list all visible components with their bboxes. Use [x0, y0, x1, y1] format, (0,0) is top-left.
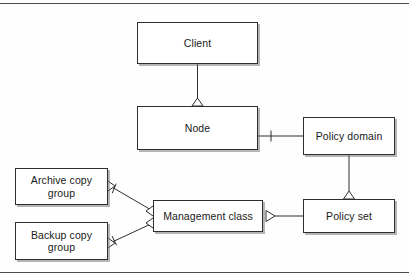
class-box-client-label: Client [184, 37, 211, 49]
class-box-policy-set-label: Policy set [326, 210, 372, 222]
class-box-archive-copy-group[interactable]: Archive copy group [15, 168, 108, 205]
connector-archive-copy-group-management-class [110, 186, 153, 211]
uml-class-diagram: Client Node Policy domain Policy set Man… [0, 0, 409, 278]
class-box-policy-domain[interactable]: Policy domain [303, 117, 395, 155]
class-box-management-class-label: Management class [163, 210, 253, 222]
class-box-policy-domain-label: Policy domain [316, 130, 383, 142]
generalization-arrowhead-node [192, 98, 203, 106]
association-notch-management-class-lower [146, 218, 153, 228]
generalization-arrowhead-management-class [266, 211, 275, 222]
connector-backup-copy-group-management-class [110, 223, 153, 243]
class-box-node[interactable]: Node [137, 106, 258, 150]
generalization-arrowhead-policy-set [344, 191, 355, 199]
class-box-backup-copy-group-label: Backup copy group [31, 229, 92, 254]
class-box-backup-copy-group[interactable]: Backup copy group [15, 222, 108, 260]
class-box-node-label: Node [185, 122, 211, 134]
class-box-archive-copy-group-label: Archive copy group [31, 174, 92, 199]
class-box-policy-set[interactable]: Policy set [303, 199, 395, 233]
class-box-client[interactable]: Client [137, 22, 258, 64]
class-box-management-class[interactable]: Management class [153, 200, 263, 232]
